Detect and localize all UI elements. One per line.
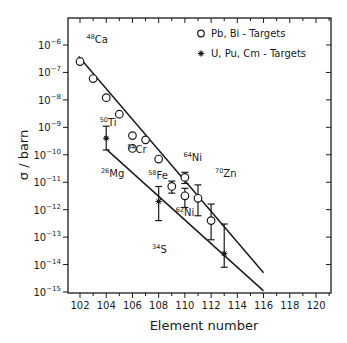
fit-line-lower xyxy=(106,149,263,291)
star-marker-center xyxy=(200,52,203,55)
x-tick-label: 116 xyxy=(254,300,273,311)
circle-marker xyxy=(142,136,150,144)
x-tick-label: 120 xyxy=(306,300,325,311)
isotope-label: 58Fe xyxy=(148,169,168,181)
isotope-label: 48Ca xyxy=(87,33,108,45)
legend-circle-icon xyxy=(198,30,205,37)
y-ticks: 10−610−710−810−910−1010−1110−1210−1310−1… xyxy=(33,38,331,298)
circle-marker xyxy=(102,94,110,102)
isotope-label: 54Cr xyxy=(127,143,147,155)
x-axis-label: Element number xyxy=(150,318,259,333)
x-tick-label: 110 xyxy=(175,300,194,311)
point-star xyxy=(155,186,162,220)
circle-marker xyxy=(129,132,137,140)
isotope-label: 26Mg xyxy=(101,167,124,179)
star-marker-center xyxy=(105,137,108,140)
circle-marker xyxy=(89,75,97,83)
isotope-label: 70Zn xyxy=(215,167,236,179)
x-tick-label: 108 xyxy=(149,300,168,311)
point-circle xyxy=(155,155,163,163)
legend: Pb, Bi - TargetsU, Pu, Cm - Targets xyxy=(198,28,306,59)
y-tick-label: 10−14 xyxy=(33,258,61,271)
circle-marker xyxy=(207,217,215,225)
x-tick-label: 102 xyxy=(70,300,89,311)
x-tick-label: 114 xyxy=(228,300,247,311)
point-circle xyxy=(116,110,124,118)
legend-label: Pb, Bi - Targets xyxy=(211,28,286,39)
x-ticks: 102104106108110112114116118120 xyxy=(70,18,329,311)
chart: 10−610−710−810−910−1010−1110−1210−1310−1… xyxy=(0,0,347,343)
circle-marker xyxy=(116,110,124,118)
isotope-label: 34S xyxy=(152,243,167,255)
legend-entry: Pb, Bi - Targets xyxy=(198,28,286,39)
point-circle xyxy=(168,181,176,193)
point-circle xyxy=(129,132,137,140)
fit-line-upper xyxy=(79,57,264,273)
legend-entry: U, Pu, Cm - Targets xyxy=(198,48,306,59)
star-marker-center xyxy=(223,252,226,255)
x-tick-label: 106 xyxy=(123,300,142,311)
isotope-label: 64Ni xyxy=(184,151,203,163)
point-star xyxy=(103,126,110,150)
y-axis-label: σ / barn xyxy=(16,130,31,180)
y-tick-label: 10−10 xyxy=(33,148,61,161)
y-tick-label: 10−9 xyxy=(38,120,61,133)
point-circle xyxy=(89,75,97,83)
circle-marker xyxy=(76,58,84,66)
y-tick-label: 10−13 xyxy=(33,230,61,243)
circle-marker xyxy=(155,155,163,163)
isotope-label: 62Ni xyxy=(176,206,195,218)
y-tick-label: 10−8 xyxy=(38,93,61,106)
point-circle xyxy=(102,94,110,102)
circle-marker xyxy=(194,194,202,202)
y-tick-label: 10−11 xyxy=(33,175,61,188)
circle-marker xyxy=(168,183,176,191)
data-points xyxy=(76,58,228,267)
x-tick-label: 104 xyxy=(97,300,116,311)
point-circle xyxy=(181,188,189,207)
point-circle xyxy=(76,58,84,66)
circle-marker xyxy=(181,174,189,182)
y-tick-label: 10−7 xyxy=(38,65,61,78)
isotope-label: 50Ti xyxy=(100,116,117,128)
point-circle xyxy=(194,185,202,216)
x-tick-label: 118 xyxy=(280,300,299,311)
y-tick-label: 10−12 xyxy=(33,203,61,216)
y-tick-label: 10−6 xyxy=(38,38,62,51)
legend-label: U, Pu, Cm - Targets xyxy=(211,48,306,59)
point-circle xyxy=(142,136,150,144)
point-circle xyxy=(181,172,189,183)
circle-marker xyxy=(181,192,189,200)
y-tick-label: 10−15 xyxy=(33,285,61,298)
star-marker-center xyxy=(157,200,160,203)
x-tick-label: 112 xyxy=(202,300,221,311)
